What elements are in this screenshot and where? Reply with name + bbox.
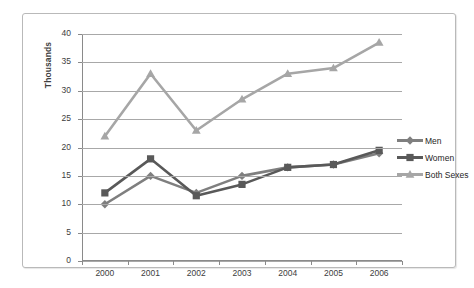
legend-marker-square-icon xyxy=(397,152,423,163)
gridline xyxy=(82,204,402,205)
y-tick-mark xyxy=(78,91,82,92)
plot-area: 0510152025303540 20002001200220032004200… xyxy=(82,34,402,261)
y-tick-mark xyxy=(78,62,82,63)
x-tick-mark xyxy=(402,261,403,265)
data-point-marker xyxy=(284,164,291,171)
data-point-marker xyxy=(238,181,245,188)
x-tick-mark xyxy=(173,261,174,265)
x-tick-label: 2004 xyxy=(268,269,308,278)
series-line-both-sexes xyxy=(105,43,379,137)
y-tick-label: 35 xyxy=(41,57,71,65)
legend-label: Women xyxy=(425,153,454,163)
gridline xyxy=(82,148,402,149)
y-tick-label: 40 xyxy=(41,29,71,37)
legend-key-both-sexes xyxy=(397,169,423,180)
x-tick-mark xyxy=(128,261,129,265)
x-tick-label: 2006 xyxy=(359,269,399,278)
chart-legend: MenWomenBoth Sexes xyxy=(397,132,474,183)
gridline xyxy=(82,261,402,262)
y-tick-mark xyxy=(78,119,82,120)
y-tick-label: 0 xyxy=(41,256,71,264)
legend-label: Men xyxy=(425,136,442,146)
y-tick-label: 5 xyxy=(41,228,71,236)
y-tick-label: 20 xyxy=(41,143,71,151)
y-tick-label: 10 xyxy=(41,199,71,207)
gridline xyxy=(82,176,402,177)
y-tick-mark xyxy=(78,204,82,205)
legend-item-both-sexes[interactable]: Both Sexes xyxy=(397,166,474,183)
x-tick-label: 2000 xyxy=(85,269,125,278)
gridline xyxy=(82,119,402,120)
legend-key-men xyxy=(397,135,423,146)
data-point-marker xyxy=(193,192,200,199)
legend-marker-triangle-icon xyxy=(397,169,423,180)
data-point-marker xyxy=(375,38,384,46)
legend-marker-diamond-icon xyxy=(397,135,423,146)
data-point-marker xyxy=(101,189,108,196)
y-tick-mark xyxy=(78,148,82,149)
legend-item-women[interactable]: Women xyxy=(397,149,474,166)
y-tick-label: 15 xyxy=(41,171,71,179)
y-tick-mark xyxy=(78,34,82,35)
gridline xyxy=(82,34,402,35)
data-point-marker xyxy=(147,155,154,162)
gridline xyxy=(82,91,402,92)
x-tick-mark xyxy=(356,261,357,265)
data-point-marker xyxy=(146,69,155,77)
x-tick-label: 2002 xyxy=(176,269,216,278)
legend-item-men[interactable]: Men xyxy=(397,132,474,149)
y-tick-mark xyxy=(78,233,82,234)
x-tick-mark xyxy=(219,261,220,265)
y-tick-label: 25 xyxy=(41,114,71,122)
x-tick-mark xyxy=(82,261,83,265)
x-tick-label: 2003 xyxy=(222,269,262,278)
x-tick-mark xyxy=(311,261,312,265)
data-point-marker xyxy=(330,161,337,168)
legend-label: Both Sexes xyxy=(425,170,468,180)
x-tick-label: 2005 xyxy=(313,269,353,278)
y-tick-label: 30 xyxy=(41,86,71,94)
chart-container: Thousands 0510152025303540 2000200120022… xyxy=(22,13,456,268)
x-tick-mark xyxy=(265,261,266,265)
x-tick-label: 2001 xyxy=(131,269,171,278)
legend-key-women xyxy=(397,152,423,163)
gridline xyxy=(82,233,402,234)
gridline xyxy=(82,62,402,63)
y-tick-mark xyxy=(78,176,82,177)
